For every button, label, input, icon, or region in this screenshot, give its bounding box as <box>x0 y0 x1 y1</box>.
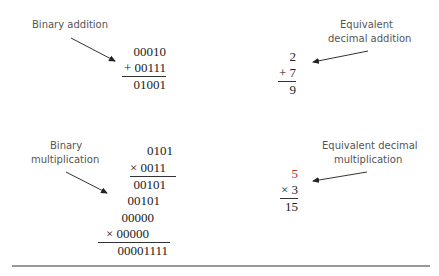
binary-addition-label: Binary addition <box>32 18 108 32</box>
arrow-decimal-multiplication <box>313 172 367 181</box>
binary-multiplier: × 0011 <box>130 160 176 177</box>
decimal-addition-label-line2: decimal addition <box>328 32 411 46</box>
partial-product-3: 00000 <box>114 210 154 226</box>
arrow-binary-multiplication <box>66 172 107 193</box>
decimal-multiplicand: 5 <box>284 166 298 182</box>
arrow-binary-addition <box>71 38 115 61</box>
partial-product-1: 00101 <box>126 177 166 193</box>
binary-multiplication-label-line1: Binary <box>50 139 82 153</box>
binary-multiplication-label-line2: multiplication <box>31 153 99 167</box>
binary-sum: 01001 <box>132 77 166 93</box>
decimal-sum: 9 <box>280 82 296 98</box>
decimal-addend-1: 2 <box>280 49 296 65</box>
decimal-product: 15 <box>280 199 298 215</box>
partial-product-2: 00101 <box>120 193 160 209</box>
partial-product-4: × 00000 <box>98 226 170 243</box>
decimal-addend-2: + 7 <box>278 65 296 82</box>
decimal-addition-label-line1: Equivalent <box>340 18 393 32</box>
binary-addend-1: 00010 <box>132 44 166 60</box>
decimal-multiplier: × 3 <box>280 182 298 199</box>
binary-multiplicand: 0101 <box>140 143 173 159</box>
decimal-multiplication-label-line1: Equivalent decimal <box>322 139 418 153</box>
decimal-multiplication-label-line2: multiplication <box>334 153 402 167</box>
arrow-decimal-addition <box>313 51 368 62</box>
binary-addend-2: + 00111 <box>122 60 166 77</box>
binary-product: 00001111 <box>116 243 168 259</box>
